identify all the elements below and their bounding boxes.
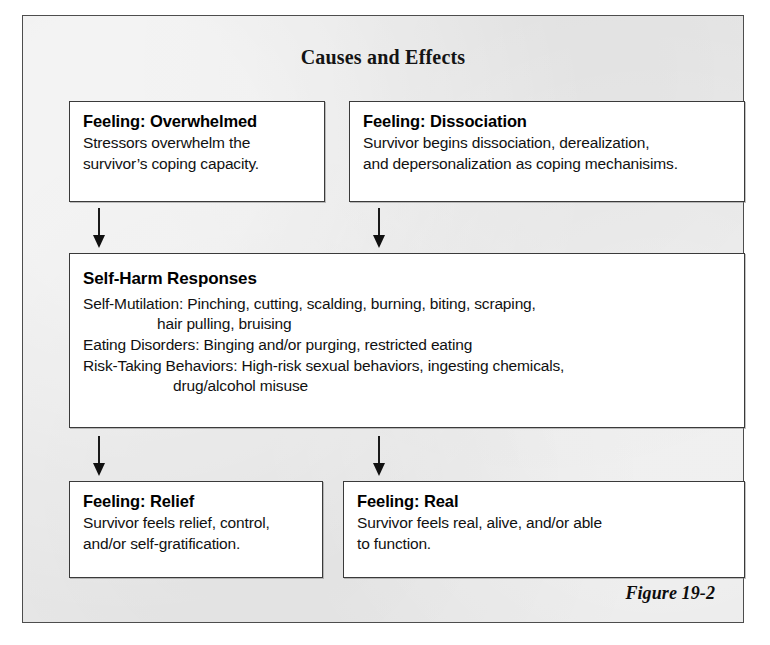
arrow-self-harm-to-real bbox=[372, 436, 386, 478]
node-body-line: and/or self-gratification. bbox=[83, 534, 310, 555]
arrow-shaft bbox=[378, 436, 380, 465]
node-title: Feeling: Relief bbox=[83, 491, 310, 512]
node-body-line: survivor’s coping capacity. bbox=[83, 154, 312, 175]
node-feeling-real: Feeling: Real Survivor feels real, alive… bbox=[343, 481, 745, 578]
figure-title: Causes and Effects bbox=[23, 46, 743, 69]
node-body-line: Survivor begins dissociation, derealizat… bbox=[363, 133, 732, 154]
node-title: Feeling: Real bbox=[357, 491, 732, 512]
arrow-shaft bbox=[98, 208, 100, 237]
node-feeling-dissociation: Feeling: Dissociation Survivor begins di… bbox=[349, 101, 745, 202]
figure-19-2: Causes and Effects Feeling: Overwhelmed … bbox=[0, 0, 770, 645]
node-title: Feeling: Dissociation bbox=[363, 111, 732, 132]
node-title: Feeling: Overwhelmed bbox=[83, 111, 312, 132]
arrow-head-icon bbox=[93, 463, 105, 476]
arrow-shaft bbox=[378, 208, 380, 237]
node-body-line: Survivor feels real, alive, and/or able bbox=[357, 513, 732, 534]
arrow-head-icon bbox=[373, 235, 385, 248]
arrow-overwhelmed-to-self-harm bbox=[92, 208, 106, 250]
node-body-line: Eating Disorders: Binging and/or purging… bbox=[83, 335, 732, 356]
node-body-line: Stressors overwhelm the bbox=[83, 133, 312, 154]
node-title: Self-Harm Responses bbox=[83, 268, 732, 290]
node-body-line: Survivor feels relief, control, bbox=[83, 513, 310, 534]
arrow-head-icon bbox=[373, 463, 385, 476]
node-self-harm-responses: Self-Harm Responses Self-Mutilation: Pin… bbox=[69, 253, 745, 428]
arrow-head-icon bbox=[93, 235, 105, 248]
node-body-line: hair pulling, bruising bbox=[83, 314, 732, 335]
figure-frame: Causes and Effects Feeling: Overwhelmed … bbox=[22, 15, 744, 623]
arrow-shaft bbox=[98, 436, 100, 465]
arrow-dissociation-to-self-harm bbox=[372, 208, 386, 250]
figure-caption: Figure 19-2 bbox=[625, 583, 715, 604]
node-body-line: to function. bbox=[357, 534, 732, 555]
node-feeling-overwhelmed: Feeling: Overwhelmed Stressors overwhelm… bbox=[69, 101, 325, 202]
node-feeling-relief: Feeling: Relief Survivor feels relief, c… bbox=[69, 481, 323, 578]
node-body-line: Self-Mutilation: Pinching, cutting, scal… bbox=[83, 294, 732, 315]
node-body-line: Risk-Taking Behaviors: High-risk sexual … bbox=[83, 356, 732, 377]
node-body-line: drug/alcohol misuse bbox=[83, 376, 732, 397]
node-body-line: and depersonalization as coping mechanis… bbox=[363, 154, 732, 175]
arrow-self-harm-to-relief bbox=[92, 436, 106, 478]
